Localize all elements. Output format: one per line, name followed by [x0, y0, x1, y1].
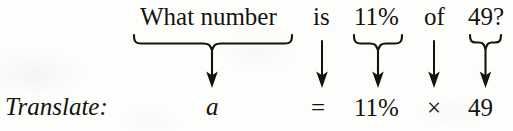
equation-token-percent: 11%	[354, 95, 399, 120]
brace-percent-icon	[354, 35, 402, 50]
brace-phrase-icon	[134, 35, 292, 50]
equation-token-variable: a	[206, 94, 219, 119]
brace-base-icon	[470, 35, 501, 49]
translate-percent-figure: What number is 11% of 49?	[0, 0, 513, 131]
equation-token-equals: =	[311, 95, 325, 120]
equation-token-base: 49	[468, 95, 493, 120]
sentence-token-base: 49?	[468, 4, 504, 29]
translate-label: Translate:	[5, 94, 108, 119]
arrow-base-icon	[480, 49, 492, 88]
arrow-of-icon	[428, 41, 440, 88]
sentence-token-phrase: What number	[140, 4, 277, 29]
equation-token-times: ×	[427, 95, 441, 120]
arrow-percent-icon	[372, 50, 384, 88]
sentence-token-of: of	[424, 4, 445, 29]
sentence-token-is: is	[313, 4, 330, 29]
sentence-token-percent: 11%	[354, 4, 399, 29]
arrow-is-icon	[316, 41, 328, 88]
arrow-phrase-icon	[206, 50, 218, 88]
